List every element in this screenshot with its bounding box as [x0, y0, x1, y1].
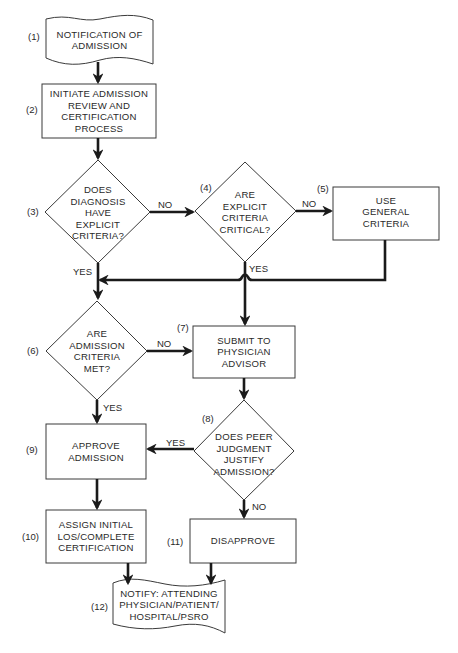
edge-label-no-6-7: NO — [157, 338, 171, 349]
node-1-text: NOTIFICATION OF ADMISSION — [46, 22, 153, 58]
node-7-text: SUBMIT TO PHYSICIAN ADVISOR — [193, 326, 295, 378]
edge-label-yes-8-9: YES — [166, 437, 185, 448]
step-label-10: (10) — [22, 531, 39, 542]
edge-label-yes-3-6: YES — [73, 266, 92, 277]
node-12-text: NOTIFY: ATTENDING PHYSICIAN/PATIENT/ HOS… — [113, 586, 225, 624]
step-label-3: (3) — [27, 206, 39, 217]
node-2-text: INITIATE ADMISSION REVIEW AND CERTIFICAT… — [42, 84, 156, 138]
node-9-text: APPROVE ADMISSION — [46, 424, 146, 479]
node-8-text: DOES PEER JUDGMENT JUSTIFY ADMISSION? — [202, 430, 286, 478]
step-label-12: (12) — [91, 601, 108, 612]
node-11-text: DISAPPROVE — [190, 519, 296, 563]
step-label-6: (6) — [27, 345, 39, 356]
step-label-5: (5) — [317, 183, 329, 194]
node-10-text: ASSIGN INITIAL LOS/COMPLETE CERTIFICATIO… — [46, 510, 146, 563]
edge-label-yes-4-7: YES — [249, 263, 268, 274]
step-label-2: (2) — [26, 104, 38, 115]
node-4-text: ARE EXPLICIT CRITERIA CRITICAL? — [205, 188, 285, 236]
node-5-text: USE GENERAL CRITERIA — [333, 187, 439, 237]
step-label-1: (1) — [28, 31, 40, 42]
step-label-11: (11) — [167, 536, 183, 547]
step-label-4: (4) — [200, 182, 212, 193]
step-label-7: (7) — [177, 322, 189, 333]
node-6-text: ARE ADMISSION CRITERIA MET? — [57, 327, 137, 375]
step-label-8: (8) — [202, 413, 214, 424]
edge-label-yes-6-9: YES — [103, 402, 122, 413]
edge-label-no-4-5: NO — [302, 198, 316, 209]
edge-label-no-8-11: NO — [252, 501, 266, 512]
node-3-text: DOES DIAGNOSIS HAVE EXPLICIT CRITERIA? — [58, 183, 138, 243]
edges — [97, 62, 385, 583]
flowchart-canvas: NOTIFICATION OF ADMISSION INITIATE ADMIS… — [0, 0, 458, 653]
edge-label-no-3-4: NO — [158, 199, 172, 210]
step-label-9: (9) — [26, 444, 38, 455]
